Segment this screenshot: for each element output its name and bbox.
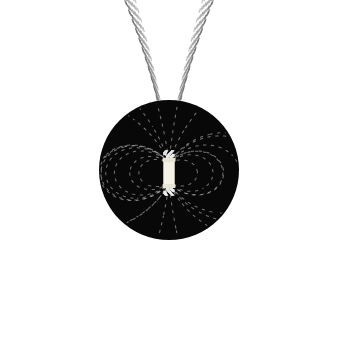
bar-magnet-body: [164, 160, 175, 187]
bar-magnet-north-cap: [163, 158, 176, 162]
bar-magnet-south-cap: [163, 184, 176, 188]
bar-magnet: [163, 158, 176, 188]
magnetic-field-figure: [0, 0, 341, 339]
field-line-canvas: [0, 0, 341, 339]
